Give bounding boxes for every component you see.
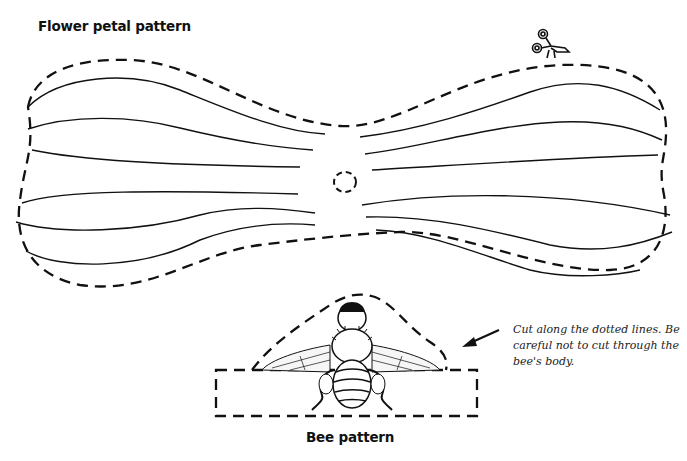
bee-pattern-title: Bee pattern <box>306 429 394 445</box>
petal-veins-left <box>16 78 325 264</box>
cutting-instruction-note: Cut along the dotted lines. Be careful n… <box>513 322 687 370</box>
petal-veins-right <box>360 84 672 276</box>
petal-center-cut-circle <box>334 172 356 192</box>
pattern-illustration <box>0 0 687 461</box>
arrow-pointer-icon <box>462 330 499 347</box>
bee-illustration <box>262 302 440 410</box>
scissors-icon <box>533 30 570 59</box>
petal-cut-outline <box>19 60 666 287</box>
